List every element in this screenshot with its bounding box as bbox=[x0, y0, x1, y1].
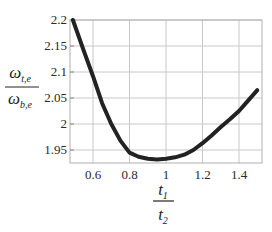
y-tick-label: 2 bbox=[61, 116, 68, 131]
x-axis-ticks: 0.60.811.21.4 bbox=[85, 167, 248, 182]
x-axis-label: t1 t2 bbox=[153, 180, 174, 226]
y-axis-label: ωt,e ωb,e bbox=[5, 63, 39, 110]
x-label-numerator: t1 bbox=[158, 180, 168, 201]
y-tick-label: 2.15 bbox=[44, 38, 67, 53]
y-tick-label: 1.95 bbox=[44, 142, 67, 157]
x-label-denominator: t2 bbox=[158, 205, 168, 226]
y-label-numerator: ωt,e bbox=[9, 63, 31, 84]
y-tick-label: 2.1 bbox=[51, 64, 67, 79]
x-tick-label: 0.6 bbox=[85, 167, 102, 182]
y-tick-label: 2.05 bbox=[44, 90, 67, 105]
x-tick-label: 1.2 bbox=[194, 167, 210, 182]
x-tick-label: 1.4 bbox=[231, 167, 248, 182]
y-tick-label: 2.2 bbox=[51, 12, 67, 27]
y-label-denominator: ωb,e bbox=[8, 89, 33, 110]
x-tick-label: 1 bbox=[163, 167, 170, 182]
chart: 1.9522.052.12.152.2 0.60.811.21.4 ωt,e ω… bbox=[0, 0, 272, 232]
data-curve bbox=[73, 20, 257, 159]
x-tick-label: 0.8 bbox=[121, 167, 137, 182]
